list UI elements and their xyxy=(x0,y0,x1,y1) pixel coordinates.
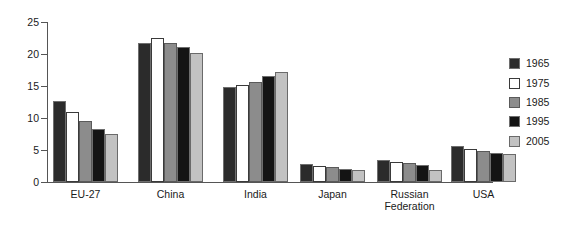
x-axis-category-label: China xyxy=(126,188,216,200)
legend-item[interactable]: 1965 xyxy=(509,54,568,73)
bar xyxy=(390,162,403,182)
legend-item-label: 1995 xyxy=(526,116,549,127)
bar xyxy=(53,101,66,182)
bar xyxy=(490,153,503,182)
legend-item-label: 1975 xyxy=(526,78,549,89)
bar xyxy=(236,85,249,182)
bar xyxy=(138,43,151,182)
bar xyxy=(262,76,275,182)
bar xyxy=(313,166,326,182)
bar xyxy=(503,154,516,182)
y-axis-tick-label: 20 xyxy=(3,49,39,60)
bar-chart: 0510152025 EU-27ChinaIndiaJapanRussian F… xyxy=(0,0,568,227)
legend-swatch-icon xyxy=(509,116,520,127)
bar xyxy=(403,163,416,182)
bar xyxy=(177,47,190,182)
legend-item[interactable]: 1975 xyxy=(509,73,568,92)
x-axis-line xyxy=(47,182,493,183)
bar xyxy=(352,170,365,182)
legend-swatch-icon xyxy=(509,58,520,69)
bar xyxy=(92,129,105,182)
bar xyxy=(190,53,203,182)
bar xyxy=(464,149,477,182)
legend-item-label: 2005 xyxy=(526,136,549,147)
bar-group xyxy=(300,22,365,182)
bar xyxy=(223,87,236,182)
bar xyxy=(339,169,352,182)
bar-group xyxy=(377,22,442,182)
legend-item-label: 1965 xyxy=(526,58,549,69)
legend-swatch-icon xyxy=(509,97,520,108)
bar xyxy=(66,112,79,182)
x-axis-category-label: EU-27 xyxy=(41,188,131,200)
bar-group xyxy=(451,22,516,182)
chart-legend: 19651975198519952005 xyxy=(509,54,568,151)
bar-group xyxy=(53,22,118,182)
y-axis-tick-label: 25 xyxy=(3,17,39,28)
y-axis-tick-label: 10 xyxy=(3,113,39,124)
bar xyxy=(249,82,262,182)
bar xyxy=(300,164,313,182)
plot-area xyxy=(47,22,490,182)
bar xyxy=(477,151,490,182)
y-axis-tick xyxy=(41,182,47,183)
bar xyxy=(79,121,92,182)
legend-item[interactable]: 1985 xyxy=(509,93,568,112)
y-axis-tick-labels: 0510152025 xyxy=(0,0,39,227)
bar-group xyxy=(223,22,288,182)
bar xyxy=(164,43,177,182)
legend-item[interactable]: 2005 xyxy=(509,132,568,151)
x-axis-category-label: USA xyxy=(439,188,529,200)
bar xyxy=(429,170,442,182)
legend-swatch-icon xyxy=(509,136,520,147)
legend-item-label: 1985 xyxy=(526,97,549,108)
bar-group xyxy=(138,22,203,182)
y-axis-tick-label: 0 xyxy=(3,177,39,188)
bar xyxy=(326,167,339,182)
bar xyxy=(377,160,390,182)
bar xyxy=(151,38,164,182)
bar xyxy=(451,146,464,182)
legend-swatch-icon xyxy=(509,78,520,89)
y-axis-tick-label: 15 xyxy=(3,81,39,92)
y-axis-tick-label: 5 xyxy=(3,145,39,156)
bar xyxy=(416,165,429,182)
bar xyxy=(275,72,288,182)
bar xyxy=(105,134,118,182)
legend-item[interactable]: 1995 xyxy=(509,112,568,131)
